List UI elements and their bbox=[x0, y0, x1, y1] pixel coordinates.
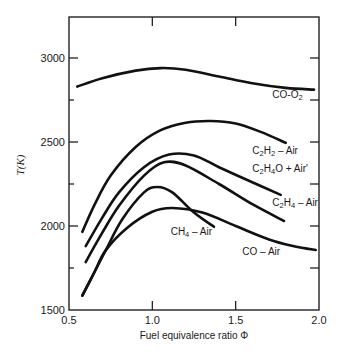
series-labels: CO-O2C2H2 – AirC2H4O + Air'C2H4 – AirCH4… bbox=[171, 89, 319, 256]
y-tick-label: 3000 bbox=[41, 52, 65, 64]
series-label-c-h-air: C2H4 – Air bbox=[272, 197, 318, 210]
series-line-co-air bbox=[82, 208, 315, 296]
x-axis-title: Fuel equivalence ratio Φ bbox=[140, 330, 249, 341]
series-label-co-air: CO – Air bbox=[242, 246, 280, 257]
series-label-c-h-o-air: C2H4O + Air' bbox=[252, 163, 308, 176]
x-tick-label: 2.0 bbox=[311, 314, 326, 326]
x-tick-label: 1.0 bbox=[145, 314, 160, 326]
y-axis-title: T(K) bbox=[14, 154, 27, 175]
series-curves bbox=[77, 68, 315, 296]
flame-temperature-chart: 15002000250030000.51.01.52.0 CO-O2C2H2 –… bbox=[0, 0, 346, 359]
series-label-ch-air: CH4 – Air bbox=[171, 226, 213, 239]
y-tick-label: 2000 bbox=[41, 220, 65, 232]
series-line-co-o bbox=[77, 68, 314, 90]
y-tick-label: 2500 bbox=[41, 136, 65, 148]
x-tick-label: 0.5 bbox=[61, 314, 76, 326]
series-line-ch-air bbox=[82, 187, 214, 296]
series-label-c-h-air: C2H2 – Air bbox=[252, 145, 298, 158]
series-label-co-o: CO-O2 bbox=[272, 89, 302, 102]
x-tick-label: 1.5 bbox=[228, 314, 243, 326]
